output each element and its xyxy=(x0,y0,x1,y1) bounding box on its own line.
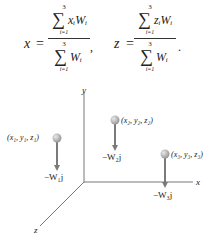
point-2-label: (x₂, y₂, z₂) xyxy=(121,116,153,125)
arrowhead-icon xyxy=(54,165,60,171)
x-axis-label: x xyxy=(196,177,200,187)
arrowhead-icon xyxy=(112,145,118,151)
force-1-label: −W₁j xyxy=(44,172,63,182)
point-1-label: (x₁, y₁, z₁) xyxy=(7,133,39,142)
ball-3 xyxy=(161,150,170,159)
weights-diagram xyxy=(0,0,220,248)
ball-2 xyxy=(111,116,120,125)
ball-1 xyxy=(53,134,62,143)
z-axis-label: z xyxy=(34,225,38,235)
force-3-label: −W₃j xyxy=(153,190,172,200)
point-3-label: (x₃, y₃, z₃) xyxy=(171,150,203,159)
force-2-label: −W₂j xyxy=(102,152,121,162)
y-axis-label: y xyxy=(82,85,86,95)
arrowhead-icon xyxy=(162,182,168,188)
z-axis xyxy=(40,182,84,226)
